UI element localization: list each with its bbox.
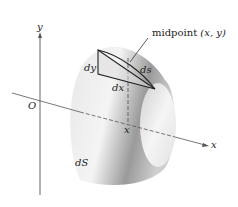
surface-inner-opening bbox=[140, 83, 176, 167]
dS-label: dS bbox=[75, 158, 88, 168]
x-axis-arrow-icon bbox=[202, 143, 209, 147]
midpoint-coords: (x, y) bbox=[200, 27, 225, 38]
midpoint-word: midpoint bbox=[152, 27, 197, 38]
ds-label: ds bbox=[140, 65, 152, 75]
origin-label: O bbox=[28, 101, 36, 111]
y-axis-arrow-icon bbox=[38, 32, 42, 38]
x-axis-label: x bbox=[211, 140, 217, 150]
x-axis bbox=[12, 93, 80, 112]
midpoint-label: midpoint (x, y) bbox=[152, 28, 226, 38]
x-axis-end bbox=[175, 137, 205, 145]
dy-label: dy bbox=[84, 63, 96, 73]
y-axis-label: y bbox=[37, 22, 43, 32]
x-tick-label: x bbox=[124, 125, 130, 135]
dx-label: dx bbox=[112, 83, 124, 93]
